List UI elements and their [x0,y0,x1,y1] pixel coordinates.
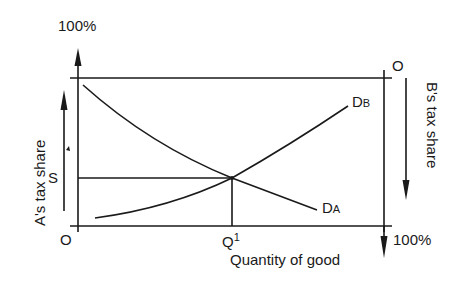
x-axis-label: Quantity of good [230,252,340,267]
curve-d-a-label-main: D [322,199,333,216]
curve-d-a-label: DA [322,200,340,215]
left-axis-arrowhead-icon [75,48,82,66]
q-label: Q1 [222,232,240,249]
curve-d-b-label-sub: B [363,97,370,109]
right-axis-label: B's tax share [425,82,440,168]
s-tick-mark [66,146,70,151]
bottom-left-origin-label: O [60,232,72,247]
q-label-superscript: 1 [234,231,240,243]
curve-d-b [95,106,348,218]
s-label: S [48,170,58,185]
right-axis-arrowhead-icon [381,236,388,258]
top-left-percent-label: 100% [58,18,96,33]
bottom-right-percent-label: 100% [393,232,431,247]
a-share-arrowhead-icon [61,90,68,110]
curve-d-b-label-main: D [352,93,363,110]
q-label-main: Q [222,233,234,250]
curve-d-b-label: DB [352,94,370,109]
left-axis-label: A's tax share [32,140,47,226]
b-share-arrowhead-icon [403,180,410,200]
equilibrium-point [230,176,234,180]
top-right-origin-label: O [392,58,404,73]
curve-d-a-label-sub: A [333,203,340,215]
